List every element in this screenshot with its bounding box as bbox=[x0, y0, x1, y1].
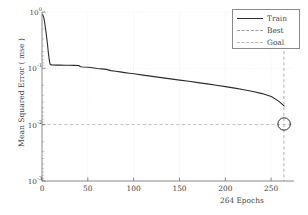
y-tick-label-1e-1: 10-1 bbox=[28, 64, 42, 73]
training-performance-chart: Mean Squared Error ( mse ) 100 10-1 10-2… bbox=[0, 0, 308, 215]
legend-label-best: Best bbox=[267, 26, 284, 35]
y-tick-label-1e-2: 10-2 bbox=[28, 120, 42, 129]
legend-label-train: Train bbox=[267, 14, 287, 23]
legend-swatch-train-icon bbox=[237, 13, 263, 23]
legend-swatch-best-icon bbox=[237, 25, 263, 35]
y-tick-label-1e0: 100 bbox=[30, 8, 42, 17]
x-tick-label-0: 0 bbox=[40, 184, 45, 193]
x-tick-label-100: 100 bbox=[127, 184, 141, 193]
legend-item-best[interactable]: Best bbox=[233, 24, 299, 36]
legend-swatch-goal-icon bbox=[237, 37, 263, 47]
legend: Train Best Goal bbox=[232, 9, 300, 49]
x-tick-label-150: 150 bbox=[172, 184, 186, 193]
x-tick-label-250: 250 bbox=[264, 184, 278, 193]
legend-item-train[interactable]: Train bbox=[233, 12, 299, 24]
x-tick-label-50: 50 bbox=[83, 184, 92, 193]
legend-item-goal[interactable]: Goal bbox=[233, 36, 299, 48]
x-tick-label-200: 200 bbox=[218, 184, 232, 193]
legend-label-goal: Goal bbox=[267, 38, 284, 47]
y-axis-label: Mean Squared Error ( mse ) bbox=[17, 18, 26, 168]
x-axis-label: 264 Epochs bbox=[220, 196, 264, 205]
